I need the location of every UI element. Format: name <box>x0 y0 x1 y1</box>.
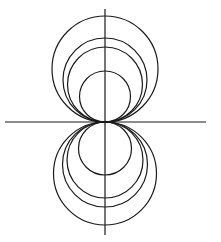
tangent-circles-diagram <box>0 0 221 242</box>
diagram-canvas <box>0 0 221 242</box>
